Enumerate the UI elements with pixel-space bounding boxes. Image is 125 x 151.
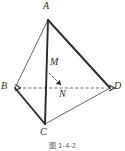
- figure-caption: 图 1-4-2: [0, 142, 125, 150]
- edge-AC: [45, 20, 48, 124]
- vertex-label-C: C: [40, 127, 47, 137]
- point-label-N: N: [59, 89, 66, 99]
- edge-BC: [15, 88, 45, 124]
- edge-AD: [48, 20, 110, 88]
- vertex-label-A: A: [43, 1, 49, 11]
- tetrahedron-drawing: [0, 0, 125, 151]
- edge-AB: [15, 20, 48, 88]
- figure-container: A B C D M N 图 1-4-2: [0, 0, 125, 151]
- edge-CD: [45, 88, 110, 124]
- arrow-MN: [49, 73, 61, 85]
- point-label-M: M: [50, 57, 58, 67]
- vertex-label-D: D: [114, 81, 121, 91]
- vertex-label-B: B: [1, 81, 7, 91]
